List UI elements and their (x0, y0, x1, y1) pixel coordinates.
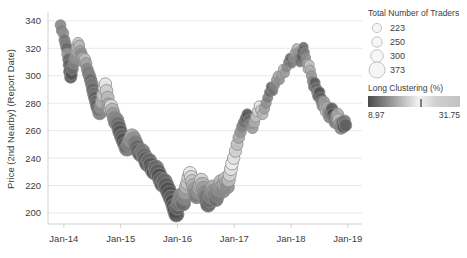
size-legend-swatch[interactable] (372, 37, 382, 47)
y-tick-label: 200 (25, 207, 41, 218)
y-tick-label: 280 (25, 98, 41, 109)
x-tick-label: Jan-16 (163, 233, 192, 244)
y-tick-label: 260 (25, 125, 41, 136)
y-axis-title: Price (2nd Nearby) (Report Date) (5, 49, 16, 189)
y-tick-label: 220 (25, 180, 41, 191)
size-legend-label: 373 (390, 65, 405, 75)
size-legend-swatch[interactable] (371, 50, 384, 63)
color-legend: Long Clustering (%)8.9731.75 (368, 83, 460, 120)
bubble-scatter-chart: 200220240260280300320340Jan-14Jan-15Jan-… (0, 0, 467, 258)
y-tick-label: 240 (25, 153, 41, 164)
color-legend-title: Long Clustering (%) (368, 83, 443, 93)
size-legend-swatch[interactable] (369, 62, 385, 78)
data-point[interactable] (339, 119, 352, 131)
y-tick-label: 340 (25, 15, 41, 26)
size-legend-title: Total Number of Traders (368, 8, 459, 18)
x-tick-label: Jan-14 (49, 233, 78, 244)
size-legend-label: 300 (390, 51, 405, 61)
colorbar[interactable] (368, 96, 460, 107)
x-tick-label: Jan-15 (106, 233, 135, 244)
x-tick-label: Jan-18 (276, 233, 305, 244)
color-legend-min-label: 8.97 (368, 110, 385, 120)
size-legend: Total Number of Traders223250300373 (368, 8, 459, 78)
y-tick-label: 320 (25, 43, 41, 54)
chart-root: 200220240260280300320340Jan-14Jan-15Jan-… (0, 0, 467, 258)
x-tick-label: Jan-19 (333, 233, 362, 244)
size-legend-label: 223 (390, 23, 405, 33)
x-tick-label: Jan-17 (220, 233, 249, 244)
color-legend-max-label: 31.75 (439, 110, 461, 120)
size-legend-label: 250 (390, 37, 405, 47)
size-legend-swatch[interactable] (372, 23, 381, 32)
data-points-group (55, 20, 352, 222)
y-tick-label: 300 (25, 70, 41, 81)
